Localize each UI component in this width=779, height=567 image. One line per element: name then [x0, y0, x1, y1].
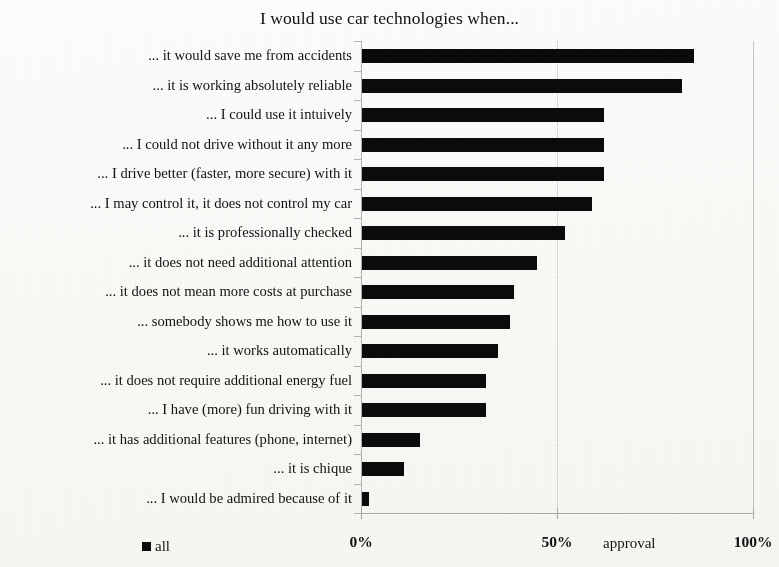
y-axis-tick [354, 189, 362, 190]
category-label: ... somebody shows me how to use it [0, 313, 352, 329]
chart-legend: all [142, 538, 170, 555]
category-label: ... I would be admired because of it [0, 490, 352, 506]
category-label: ... it is chique [0, 460, 352, 476]
category-label: ... I may control it, it does not contro… [0, 195, 352, 211]
bar-row [361, 130, 753, 160]
x-axis-tick [361, 508, 362, 519]
category-label: ... I could not drive without it any mor… [0, 136, 352, 152]
y-axis-tick [354, 336, 362, 337]
x-axis-tick [557, 508, 558, 519]
bar-row [361, 159, 753, 189]
bar[interactable] [361, 79, 682, 93]
bar-row [361, 41, 753, 71]
category-label: ... it is professionally checked [0, 224, 352, 240]
bar[interactable] [361, 226, 565, 240]
category-label: ... it works automatically [0, 342, 352, 358]
bar[interactable] [361, 462, 404, 476]
bar[interactable] [361, 49, 694, 63]
bar-row [361, 248, 753, 278]
bar-row [361, 454, 753, 484]
bar[interactable] [361, 256, 537, 270]
category-label: ... I could use it intuively [0, 106, 352, 122]
x-axis-tick [753, 508, 754, 519]
bar[interactable] [361, 492, 369, 506]
gridline-100-percent [753, 41, 754, 513]
y-axis-tick [354, 41, 362, 42]
y-axis-tick [354, 484, 362, 485]
y-axis-tick [354, 366, 362, 367]
x-axis-title: approval [603, 534, 655, 552]
category-label: ... it has additional features (phone, i… [0, 431, 352, 447]
category-label: ... it does not need additional attentio… [0, 254, 352, 270]
x-axis-tick-label: 0% [349, 533, 372, 551]
x-axis-tick-label: 100% [734, 533, 773, 551]
y-axis-tick [354, 71, 362, 72]
legend-entry-label: all [155, 538, 170, 555]
bar[interactable] [361, 138, 604, 152]
category-label: ... it would save me from accidents [0, 47, 352, 63]
bar-row [361, 366, 753, 396]
bar[interactable] [361, 167, 604, 181]
y-axis-tick [354, 277, 362, 278]
category-label: ... I drive better (faster, more secure)… [0, 165, 352, 181]
bar[interactable] [361, 197, 592, 211]
bar[interactable] [361, 285, 514, 299]
bar-row [361, 189, 753, 219]
category-axis-labels: ... it would save me from accidents... i… [0, 41, 356, 513]
bar[interactable] [361, 374, 486, 388]
y-axis-tick [354, 395, 362, 396]
bar[interactable] [361, 108, 604, 122]
bar-row [361, 277, 753, 307]
y-axis-tick [354, 218, 362, 219]
bar-row [361, 425, 753, 455]
y-axis-tick [354, 454, 362, 455]
y-axis-tick [354, 159, 362, 160]
bar-row [361, 218, 753, 248]
category-label: ... it does not require additional energ… [0, 372, 352, 388]
y-axis-tick [354, 425, 362, 426]
legend-square-marker-icon [142, 542, 151, 551]
bar[interactable] [361, 344, 498, 358]
y-axis-tick [354, 248, 362, 249]
category-label: ... it is working absolutely reliable [0, 77, 352, 93]
chart-title: I would use car technologies when... [0, 7, 779, 29]
category-label: ... it does not mean more costs at purch… [0, 283, 352, 299]
chart-page: I would use car technologies when... ...… [0, 0, 779, 567]
plot-area [361, 41, 753, 513]
bar-row [361, 395, 753, 425]
x-axis-tick-label: 50% [542, 533, 573, 551]
category-label: ... I have (more) fun driving with it [0, 401, 352, 417]
bar-row [361, 307, 753, 337]
y-axis-tick [354, 307, 362, 308]
bar-row [361, 336, 753, 366]
y-axis-tick [354, 100, 362, 101]
y-axis-tick [354, 130, 362, 131]
bar[interactable] [361, 315, 510, 329]
bar[interactable] [361, 433, 420, 447]
bar[interactable] [361, 403, 486, 417]
bar-row [361, 100, 753, 130]
bar-row [361, 71, 753, 101]
